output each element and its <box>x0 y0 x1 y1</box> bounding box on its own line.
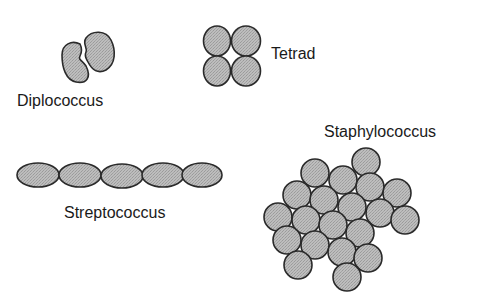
staphylococcus-shape <box>264 148 419 291</box>
staphylococcus-cell <box>391 206 419 234</box>
tetrad-cell <box>232 56 261 86</box>
bacteria-arrangements-diagram <box>0 0 486 292</box>
staphylococcus-cell <box>283 181 311 209</box>
streptococcus-cell <box>17 163 59 187</box>
streptococcus-cell <box>182 163 222 187</box>
staphylococcus-label: Staphylococcus <box>324 124 436 140</box>
streptococcus-cell <box>142 163 184 187</box>
streptococcus-cell <box>101 164 143 188</box>
streptococcus-shape <box>17 163 222 188</box>
diplococcus-cell <box>62 42 88 82</box>
tetrad-shape <box>204 26 261 86</box>
streptococcus-label: Streptococcus <box>64 205 165 221</box>
diplococcus-shape <box>62 32 114 82</box>
streptococcus-cell <box>59 163 101 187</box>
diplococcus-label: Diplococcus <box>17 93 103 109</box>
staphylococcus-cell <box>273 226 301 254</box>
tetrad-label: Tetrad <box>271 46 315 62</box>
staphylococcus-cell <box>352 148 380 176</box>
tetrad-cell <box>232 26 261 56</box>
staphylococcus-cell <box>328 238 356 266</box>
staphylococcus-cell <box>284 251 312 279</box>
tetrad-cell <box>204 26 231 56</box>
diplococcus-cell <box>85 32 115 71</box>
staphylococcus-cell <box>333 263 361 291</box>
tetrad-cell <box>204 56 231 86</box>
